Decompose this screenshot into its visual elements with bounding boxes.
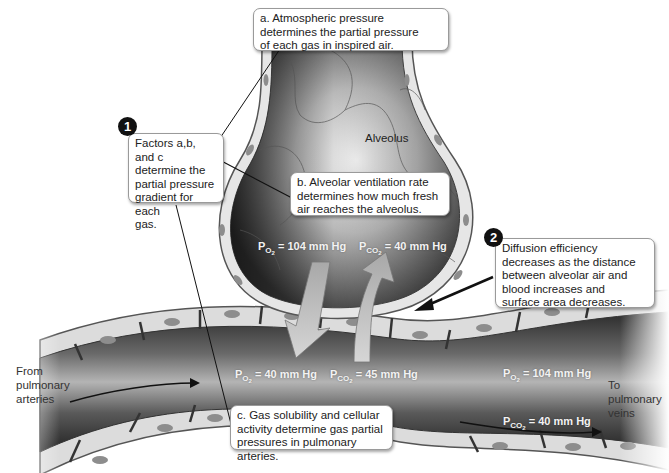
callout-line: air reaches the alveolus. [297, 203, 443, 217]
callout-diffusion-efficiency: Diffusion efficiency decreases as the di… [495, 238, 655, 308]
callout-line: activity determine gas partial [237, 423, 386, 437]
step-1-badge: 1 [118, 117, 137, 136]
callout-line: blood increases and [502, 283, 648, 297]
callout-line: surface area decreases. [502, 296, 648, 310]
callout-line: determine the [135, 164, 217, 178]
callout-line: Diffusion efficiency [502, 242, 648, 256]
arterial-po2-label: PO2 = 40 mm Hg [235, 368, 317, 384]
callout-line: of each gas in inspired air. [260, 39, 442, 53]
alveolus-label: Alveolus [365, 132, 408, 144]
callout-atmospheric-pressure: a. Atmospheric pressure determines the p… [253, 8, 449, 51]
step-2-badge: 2 [484, 228, 503, 247]
callout-line: partial pressure [135, 178, 217, 192]
callout-alveolar-ventilation: b. Alveolar ventilation rate determines … [290, 172, 450, 216]
callout-line: b. Alveolar ventilation rate [297, 176, 443, 190]
callout-line: Factors a,b, and c [135, 137, 217, 164]
callout-line: a. Atmospheric pressure [260, 12, 442, 26]
arterial-pco2-label: PCO2 = 45 mm Hg [330, 368, 418, 384]
alveolar-pco2-label: PCO2 = 40 mm Hg [359, 240, 447, 256]
venous-pco2-label: PCO2 = 40 mm Hg [503, 415, 591, 431]
callout-line: determines the partial pressure [260, 26, 442, 40]
gas-exchange-illustration [0, 0, 669, 473]
callout-gas-solubility: c. Gas solubility and cellular activity … [230, 405, 393, 450]
callout-line: c. Gas solubility and cellular [237, 409, 386, 423]
to-pulmonary-veins-label: To pulmonary veins [608, 378, 662, 420]
venous-po2-label: PO2 = 104 mm Hg [503, 367, 591, 383]
callout-factors: Factors a,b, and c determine the partial… [128, 133, 224, 203]
callout-line: between alveolar air and [502, 269, 648, 283]
callout-line: gas. [135, 218, 217, 232]
callout-line: decreases as the distance [502, 256, 648, 270]
alveolar-po2-label: PO2 = 104 mm Hg [258, 240, 346, 256]
callout-line: pressures in pulmonary arteries. [237, 436, 386, 463]
callout-line: determines how much fresh [297, 190, 443, 204]
callout-line: gradient for each [135, 191, 217, 218]
from-pulmonary-arteries-label: From pulmonary arteries [16, 364, 70, 406]
